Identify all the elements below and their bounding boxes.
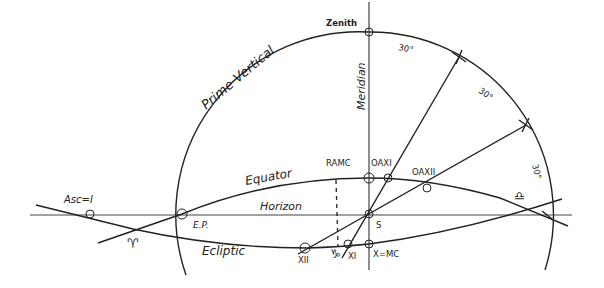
- xii-label: XII: [298, 255, 309, 265]
- prime-vertical-label: Prime Vertical: [198, 42, 277, 112]
- angle-label-2: 30°: [477, 85, 495, 102]
- house-division-diagram: Zenith Prime Vertical Meridian Equator H…: [0, 0, 604, 288]
- ecliptic-label: Ecliptic: [202, 244, 246, 258]
- meridian-label: Meridian: [355, 62, 368, 110]
- x-mc-label: X=MC: [373, 249, 399, 259]
- house-line-xii: [298, 125, 526, 254]
- angle-label-1: 30°: [398, 42, 415, 54]
- ramc-dashed-line: [336, 180, 338, 246]
- angle-label-3: 30°: [530, 163, 544, 180]
- horizon-label: Horizon: [260, 200, 302, 213]
- xi-label: XI: [348, 251, 356, 261]
- ramc-label: RAMC: [326, 158, 351, 168]
- asc-label: Asc=I: [63, 194, 93, 205]
- s-label: S: [376, 220, 381, 230]
- oax2-point: [423, 184, 431, 192]
- capricorn-symbol: ♑: [330, 247, 341, 261]
- oax1-label: OAXI: [371, 158, 392, 168]
- aries-symbol: ♈: [127, 236, 139, 251]
- libra-symbol: ♎: [514, 189, 525, 203]
- aries-line: [98, 214, 182, 243]
- asc-point: [86, 210, 94, 218]
- thirty-degree-marks: [452, 50, 552, 219]
- ep-label: E.P.: [193, 220, 209, 230]
- oax2-label: OAXII: [412, 167, 435, 177]
- zenith-label: Zenith: [326, 18, 357, 28]
